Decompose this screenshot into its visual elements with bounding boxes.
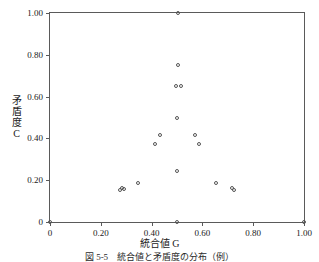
data-point (122, 187, 126, 191)
data-point (175, 220, 179, 224)
data-point (193, 133, 197, 137)
plot-area: 1.00 0.80 0.60 0.40 0.20 0 0 0.20 0.40 0… (49, 12, 305, 223)
y-tick-label-0.60: 0.60 (27, 92, 43, 101)
data-point (158, 133, 162, 137)
data-point (232, 188, 236, 192)
y-axis-title-char-4: C (10, 128, 23, 139)
y-axis-title-char-2: 盾 (10, 106, 23, 117)
x-tick-0.60 (202, 222, 203, 226)
data-point (302, 220, 306, 224)
data-point (48, 220, 52, 224)
y-tick-label-0: 0 (39, 218, 44, 227)
data-point (214, 181, 218, 185)
data-point (176, 63, 180, 67)
y-axis-title-char-1: 矛 (10, 95, 23, 106)
y-axis-title: 矛 盾 度 C (10, 95, 23, 139)
x-tick-0.80 (253, 222, 254, 226)
data-point (197, 142, 201, 146)
x-tick-label-0: 0 (48, 229, 53, 238)
x-tick-label-0.60: 0.60 (195, 229, 211, 238)
y-tick-label-0.80: 0.80 (27, 50, 43, 59)
data-point (176, 11, 180, 15)
data-point (174, 84, 178, 88)
y-tick-label-0.40: 0.40 (27, 134, 43, 143)
x-axis-title: 統合値 G (0, 238, 319, 250)
data-point (175, 116, 179, 120)
y-axis-title-char-3: 度 (10, 117, 23, 128)
x-tick-label-0.40: 0.40 (144, 229, 160, 238)
data-point (175, 169, 179, 173)
data-point (179, 84, 183, 88)
x-tick-label-0.20: 0.20 (93, 229, 109, 238)
x-tick-0.20 (101, 222, 102, 226)
x-tick-label-0.80: 0.80 (245, 229, 261, 238)
scatter-plot-figure: 矛 盾 度 C 1.00 0.80 0.60 0.40 0.20 0 0 0.2… (0, 0, 319, 262)
figure-caption: 図 5-5 統合値と矛盾度の分布（例） (0, 252, 319, 262)
y-tick-label-0.20: 0.20 (27, 176, 43, 185)
data-point (136, 181, 140, 185)
data-point (153, 142, 157, 146)
y-tick-label-1.00: 1.00 (27, 9, 43, 18)
x-tick-0.40 (152, 222, 153, 226)
data-points-layer (50, 13, 304, 222)
x-tick-label-1.00: 1.00 (296, 229, 312, 238)
